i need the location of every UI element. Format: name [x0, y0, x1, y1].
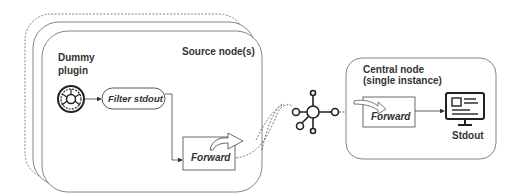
dummy-plugin-label-line2: plugin	[58, 65, 88, 77]
diagram-canvas	[0, 0, 515, 195]
source-forward-label: Forward	[191, 152, 230, 164]
filter-stdout-label: Filter stdout	[108, 93, 163, 105]
stdout-output-label: Stdout	[452, 130, 484, 142]
dummy-plugin-label-line1: Dummy	[58, 52, 95, 64]
central-forward-label: Forward	[371, 111, 410, 123]
source-node-label: Source node(s)	[182, 46, 255, 58]
central-node-label-line2: (single instance)	[363, 75, 442, 87]
network-hub-icon	[293, 91, 339, 134]
